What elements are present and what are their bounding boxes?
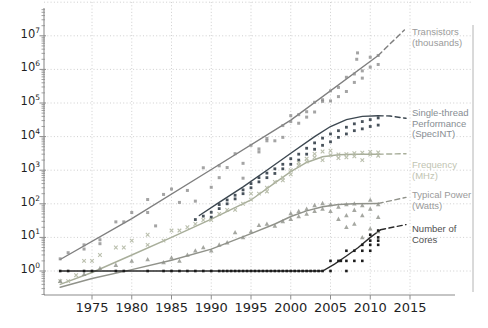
frequency-marker <box>313 152 317 156</box>
single_thread-marker <box>218 207 221 210</box>
cores-marker <box>67 270 70 273</box>
transistors-marker <box>146 198 149 201</box>
cores-marker <box>226 270 229 273</box>
transistors-marker <box>178 201 181 204</box>
transistors-marker <box>210 186 213 189</box>
transistors-marker <box>186 189 189 192</box>
transistors-marker <box>313 110 316 113</box>
transistors-marker <box>305 110 308 113</box>
x-tick-label: 1985 <box>155 300 188 315</box>
transistors-marker <box>257 150 260 153</box>
cores-marker <box>178 270 181 273</box>
cores-marker <box>262 270 265 273</box>
cores-marker <box>274 270 277 273</box>
transistors-marker <box>242 177 245 180</box>
single_thread-marker <box>337 129 340 132</box>
power-marker <box>352 208 357 212</box>
cores-marker <box>238 270 241 273</box>
frequency-marker <box>345 156 349 160</box>
single_thread-marker <box>226 202 229 205</box>
single_thread-marker <box>329 133 332 136</box>
single_thread-marker <box>337 136 340 139</box>
cores-marker <box>329 270 332 273</box>
power-marker <box>265 222 270 226</box>
frequency-marker <box>170 229 174 233</box>
transistors-marker <box>355 58 358 61</box>
single_thread-marker <box>266 176 269 179</box>
single_thread-marker <box>345 126 348 129</box>
cores-marker <box>369 249 372 252</box>
cores-marker <box>293 270 296 273</box>
frequency-marker <box>130 239 134 243</box>
transistors-marker <box>353 72 356 75</box>
single_thread-marker <box>202 215 205 218</box>
cores-marker <box>270 270 273 273</box>
cores-marker <box>345 270 348 273</box>
frequency-marker <box>74 273 78 277</box>
transistors-marker <box>218 176 221 179</box>
power-marker <box>296 209 301 213</box>
transistors-trend-dashed <box>378 30 404 56</box>
transistors-marker <box>83 248 86 251</box>
cores-marker <box>301 270 304 273</box>
transistors-marker <box>313 101 316 104</box>
transistors-marker <box>377 54 380 57</box>
single_thread-marker <box>273 167 276 170</box>
transistors-marker <box>369 56 372 59</box>
cores-marker <box>115 270 118 273</box>
cores-marker <box>369 233 372 236</box>
cores-marker <box>83 270 86 273</box>
single_thread-marker <box>250 182 253 185</box>
frequency-marker <box>281 179 285 183</box>
frequency-marker <box>186 225 190 229</box>
transistors-marker <box>250 144 253 147</box>
transistors-marker <box>281 136 284 139</box>
cores-marker <box>186 270 189 273</box>
power-marker <box>368 207 373 211</box>
power-marker <box>368 197 373 201</box>
cores-marker <box>289 270 292 273</box>
frequency-marker <box>289 173 293 177</box>
cores-marker <box>266 270 269 273</box>
transistors-marker <box>154 224 157 227</box>
legend-label-single-thread: Single-thread Performance (SpecINT) <box>412 108 486 140</box>
y-tick-label: 101 <box>4 230 40 241</box>
frequency-marker <box>353 154 357 158</box>
cores-marker <box>377 244 380 247</box>
x-tick-label: 1995 <box>234 300 267 315</box>
power-marker <box>344 213 349 217</box>
transistors-marker <box>329 99 332 102</box>
cores-marker <box>345 249 348 252</box>
single_thread-marker <box>218 203 221 206</box>
cores-marker <box>361 249 364 252</box>
x-tick-label: 1990 <box>195 300 228 315</box>
cores-marker <box>258 270 261 273</box>
cores-marker <box>361 244 364 247</box>
cores-marker <box>377 236 380 239</box>
frequency-marker <box>178 229 182 233</box>
transistors-marker <box>305 116 308 119</box>
transistors-marker <box>226 166 229 169</box>
transistors-marker <box>361 69 364 72</box>
cores-marker <box>230 270 233 273</box>
transistors-marker <box>356 51 359 54</box>
y-tick-label: 102 <box>4 197 40 208</box>
x-tick-label: 2000 <box>274 300 307 315</box>
transistors-marker <box>98 242 101 245</box>
cores-marker <box>146 270 149 273</box>
transistors-marker <box>218 164 221 167</box>
cores-marker <box>369 244 372 247</box>
frequency-marker <box>202 218 206 222</box>
cores-marker <box>91 270 94 273</box>
frequency-marker <box>146 243 150 247</box>
legend-label-typical-power: Typical Power (Watts) <box>412 190 486 211</box>
power-marker <box>344 225 349 229</box>
single_thread-marker <box>266 172 269 175</box>
y-tick-label: 106 <box>4 62 40 73</box>
power-trend-dashed <box>378 197 406 203</box>
cores-marker <box>162 270 165 273</box>
cores-marker <box>254 270 257 273</box>
frequency-marker <box>321 150 325 154</box>
frequency-marker <box>265 190 269 194</box>
frequency-marker <box>114 246 118 250</box>
